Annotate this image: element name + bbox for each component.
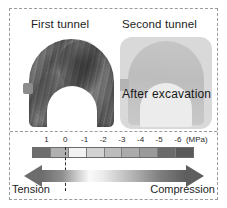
colorbar-segment bbox=[105, 148, 123, 157]
panel-divider bbox=[10, 131, 217, 132]
colorbar-tick-label: 0 bbox=[63, 135, 67, 144]
colorbar-tick-label: -6 bbox=[174, 135, 181, 144]
colorbar-tick-label: -3 bbox=[118, 135, 125, 144]
colorbar-segment bbox=[140, 148, 158, 157]
colorbar-unit-label: (MPa) bbox=[186, 135, 208, 144]
colorbar-segment bbox=[158, 148, 176, 157]
second-tunnel-title: Second tunnel bbox=[122, 18, 197, 30]
arrow-gradient-shaft bbox=[42, 170, 186, 182]
first-tunnel-contour bbox=[23, 39, 120, 127]
colorbar-segment bbox=[176, 148, 193, 157]
colorbar-segment bbox=[87, 148, 105, 157]
colorbar-legend: 10-1-2-3-4-5-6(MPa) Tension Compression bbox=[10, 133, 217, 199]
colorbar-tick-label: -1 bbox=[81, 135, 88, 144]
compression-label: Compression bbox=[150, 183, 215, 195]
colorbar-segment bbox=[69, 148, 87, 157]
stress-colorbar bbox=[32, 147, 194, 158]
colorbar-segment bbox=[122, 148, 140, 157]
colorbar-tick-label: -4 bbox=[137, 135, 144, 144]
tension-label: Tension bbox=[12, 183, 50, 195]
colorbar-tick-label: -2 bbox=[100, 135, 107, 144]
first-tunnel-left-haunch bbox=[23, 83, 33, 94]
first-tunnel-opening bbox=[47, 86, 97, 131]
colorbar-segment bbox=[33, 148, 51, 157]
colorbar-tick-label: -5 bbox=[156, 135, 163, 144]
contour-plot-panel: First tunnel Second tunnel After excavat… bbox=[10, 9, 217, 131]
colorbar-tick-label: 1 bbox=[44, 135, 48, 144]
stress-contour-figure: First tunnel Second tunnel After excavat… bbox=[0, 0, 227, 208]
first-tunnel-title: First tunnel bbox=[31, 18, 89, 30]
after-excavation-annotation: After excavation bbox=[122, 87, 211, 101]
second-tunnel-contour bbox=[120, 37, 212, 129]
colorbar-tick-labels: 10-1-2-3-4-5-6(MPa) bbox=[10, 135, 217, 146]
